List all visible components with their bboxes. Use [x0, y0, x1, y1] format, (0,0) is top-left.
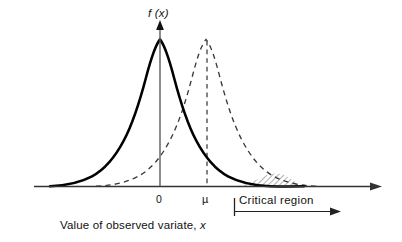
y-axis-arrowhead — [156, 20, 164, 30]
dashed-distribution-curve — [96, 39, 316, 186]
solid-distribution-curve — [50, 39, 304, 186]
critical-region-arrowhead — [330, 208, 341, 216]
plot-canvas — [0, 0, 402, 242]
x-axis-arrowhead — [370, 182, 382, 190]
x-axis-caption-text: Value of observed variate, — [60, 219, 200, 231]
mu-tick-label: µ — [202, 194, 208, 205]
x-axis-caption: Value of observed variate, x — [60, 220, 206, 232]
normal-distribution-figure: f (x) 0 µ Critical region Value of obser… — [0, 0, 402, 242]
critical-region-label: Critical region — [239, 195, 314, 207]
y-axis-label: f (x) — [148, 8, 169, 20]
x-axis — [34, 182, 382, 190]
x-axis-caption-variable: x — [200, 219, 206, 231]
origin-tick-label: 0 — [156, 194, 162, 205]
critical-region-shading — [234, 173, 302, 186]
